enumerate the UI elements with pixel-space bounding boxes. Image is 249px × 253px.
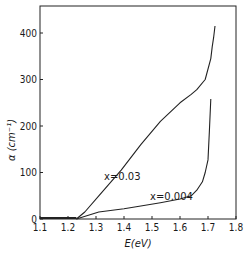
series-line-x-0.03 bbox=[76, 26, 215, 219]
x-tick-label: 1.4 bbox=[117, 222, 132, 233]
series-group bbox=[76, 26, 215, 219]
x-tick-label: 1.7 bbox=[201, 222, 215, 233]
y-tick-label: 100 bbox=[20, 167, 37, 178]
annotation-x-0.03: x=0.03 bbox=[104, 171, 141, 182]
plot-frame bbox=[40, 6, 236, 219]
x-tick-label: 1.8 bbox=[229, 222, 244, 233]
y-tick-label: 200 bbox=[20, 121, 37, 132]
y-tick-label: 300 bbox=[20, 74, 37, 85]
y-tick-label: 400 bbox=[20, 28, 37, 39]
absorption-chart: 0100200300400 1.11.21.31.41.51.61.71.8 E… bbox=[0, 0, 249, 253]
annotation-x-0.004: x=0.004 bbox=[150, 191, 193, 202]
x-axis-label: E(eV) bbox=[124, 238, 151, 249]
x-tick-label: 1.1 bbox=[33, 222, 47, 233]
x-tick-label: 1.6 bbox=[173, 222, 188, 233]
x-tick-label: 1.2 bbox=[61, 222, 75, 233]
x-tick-label: 1.5 bbox=[145, 222, 159, 233]
y-axis-label: α (cm⁻¹) bbox=[6, 119, 17, 161]
x-tick-label: 1.3 bbox=[89, 222, 103, 233]
